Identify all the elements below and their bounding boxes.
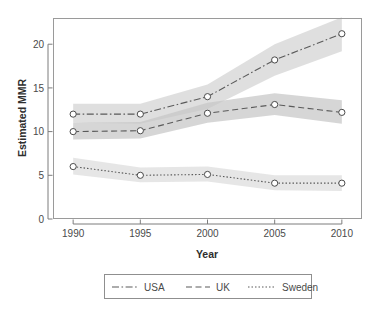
data-point-marker xyxy=(272,101,278,107)
y-tick-label: 5 xyxy=(38,170,44,181)
data-point-marker xyxy=(272,57,278,63)
legend-label-usa[interactable]: USA xyxy=(144,282,165,293)
data-point-marker xyxy=(137,128,143,134)
x-axis-title: Year xyxy=(196,248,218,260)
y-tick-label: 10 xyxy=(33,126,45,137)
chart-figure: 05101520 19901995200020052010 Estimated … xyxy=(0,0,392,310)
x-tick-label: 2010 xyxy=(331,228,354,239)
data-point-marker xyxy=(204,110,210,116)
y-tick-label: 20 xyxy=(33,39,45,50)
data-point-marker xyxy=(339,109,345,115)
mmr-trend-chart: 05101520 19901995200020052010 Estimated … xyxy=(0,0,392,310)
x-tick-label: 1995 xyxy=(129,228,152,239)
data-point-marker xyxy=(137,172,143,178)
data-point-marker xyxy=(70,129,76,135)
data-point-marker xyxy=(204,171,210,177)
data-point-marker xyxy=(272,180,278,186)
chart-legend: USAUKSweden xyxy=(105,275,319,299)
data-point-marker xyxy=(339,180,345,186)
y-tick-label: 15 xyxy=(33,83,45,94)
data-point-marker xyxy=(339,31,345,37)
data-point-marker xyxy=(70,111,76,117)
data-point-marker xyxy=(204,94,210,100)
data-point-marker xyxy=(137,111,143,117)
x-tick-label: 2000 xyxy=(196,228,219,239)
x-tick-label: 1990 xyxy=(62,228,85,239)
y-axis-title: Estimated MMR xyxy=(16,79,28,158)
y-tick-label: 0 xyxy=(38,214,44,225)
legend-label-sweden[interactable]: Sweden xyxy=(282,282,318,293)
y-axis: 05101520 xyxy=(33,39,53,225)
x-tick-label: 2005 xyxy=(264,228,287,239)
x-axis: 19901995200020052010 xyxy=(62,220,353,240)
data-point-marker xyxy=(70,163,76,169)
legend-label-uk[interactable]: UK xyxy=(216,282,230,293)
